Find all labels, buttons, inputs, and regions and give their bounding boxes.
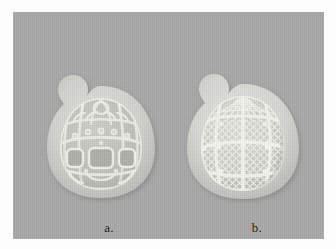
radiolarian-fine-mesh-specimen — [173, 64, 313, 204]
panel-label-b: b. — [227, 220, 287, 236]
radiolarian-coarse-pore-specimen — [31, 64, 171, 204]
specimen-a — [31, 64, 171, 204]
panel-label-a: a. — [79, 220, 139, 236]
specimen-b — [173, 64, 313, 204]
photograph-field: a. b. — [13, 12, 324, 239]
figure-plate: a. b. — [0, 0, 336, 249]
